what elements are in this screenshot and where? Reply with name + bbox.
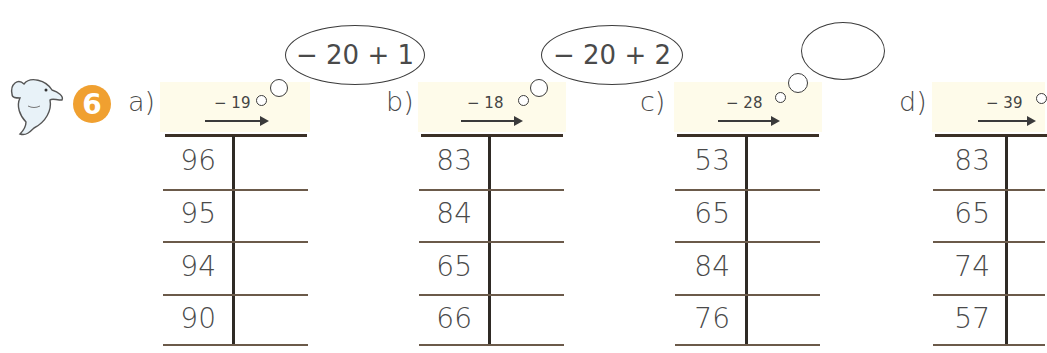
table-cell-value: 76 xyxy=(670,302,730,335)
thought-bubble-c[interactable] xyxy=(801,22,885,80)
row-line xyxy=(933,241,1045,243)
answer-cell[interactable] xyxy=(492,192,562,240)
thought-dot-small xyxy=(1036,93,1047,104)
row-line xyxy=(163,344,308,346)
answer-cell[interactable] xyxy=(236,244,306,292)
operation-label-b: − 18 xyxy=(467,94,503,112)
thought-dot-small xyxy=(256,95,267,106)
row-line xyxy=(419,344,564,346)
part-label-c: c) xyxy=(640,86,665,117)
table-divider-b xyxy=(488,136,491,344)
answer-cell[interactable] xyxy=(1009,297,1045,343)
arrow-icon xyxy=(978,120,1032,122)
exercise-number-badge: 6 xyxy=(73,85,111,123)
operation-label-d: − 39 xyxy=(986,94,1022,112)
dolphin-icon xyxy=(6,72,68,138)
table-cell-value: 83 xyxy=(412,144,472,177)
answer-cell[interactable] xyxy=(236,138,306,188)
row-line xyxy=(419,241,564,243)
answer-cell[interactable] xyxy=(236,192,306,240)
row-line xyxy=(163,294,308,296)
answer-cell[interactable] xyxy=(1009,138,1045,188)
answer-cell[interactable] xyxy=(492,297,562,343)
row-line xyxy=(933,189,1045,191)
table-cell-value: 65 xyxy=(670,197,730,230)
part-label-d: d) xyxy=(899,86,927,117)
table-divider-c xyxy=(745,136,748,344)
table-cell-value: 90 xyxy=(156,302,216,335)
table-cell-value: 83 xyxy=(930,144,990,177)
table-top-line-a xyxy=(165,134,307,137)
table-cell-value: 94 xyxy=(156,250,216,283)
arrow-icon xyxy=(205,120,265,122)
table-divider-d xyxy=(1005,136,1008,344)
answer-cell[interactable] xyxy=(749,244,819,292)
row-line xyxy=(933,344,1045,346)
row-line xyxy=(675,189,820,191)
part-label-a: a) xyxy=(128,86,155,117)
answer-cell[interactable] xyxy=(1009,244,1045,292)
answer-cell[interactable] xyxy=(236,297,306,343)
table-cell-value: 66 xyxy=(412,302,472,335)
row-line xyxy=(675,344,820,346)
operation-label-c: − 28 xyxy=(726,94,762,112)
answer-cell[interactable] xyxy=(749,192,819,240)
table-cell-value: 57 xyxy=(930,302,990,335)
thought-dot-small xyxy=(518,95,529,106)
thought-dot-large xyxy=(530,79,548,97)
table-divider-a xyxy=(232,136,235,344)
thought-text-a: − 20 + 1 xyxy=(296,40,414,70)
table-cell-value: 65 xyxy=(930,197,990,230)
table-cell-value: 65 xyxy=(412,250,472,283)
row-line xyxy=(419,294,564,296)
table-cell-value: 95 xyxy=(156,197,216,230)
table-top-line-b xyxy=(421,134,563,137)
row-line xyxy=(933,294,1045,296)
answer-cell[interactable] xyxy=(1009,192,1045,240)
row-line xyxy=(419,189,564,191)
arrow-icon xyxy=(461,120,519,122)
table-cell-value: 96 xyxy=(156,144,216,177)
thought-text-b: − 20 + 2 xyxy=(553,40,671,70)
answer-cell[interactable] xyxy=(492,244,562,292)
table-cell-value: 84 xyxy=(670,250,730,283)
operation-label-a: − 19 xyxy=(214,94,250,112)
row-line xyxy=(675,294,820,296)
arrow-icon xyxy=(718,120,776,122)
answer-cell[interactable] xyxy=(749,138,819,188)
thought-bubble-a: − 20 + 1 xyxy=(285,25,425,85)
table-top-line-c xyxy=(677,134,819,137)
row-line xyxy=(675,241,820,243)
table-top-line-d xyxy=(935,134,1047,137)
row-line xyxy=(163,189,308,191)
table-cell-value: 74 xyxy=(930,250,990,283)
thought-dot-large xyxy=(788,73,808,93)
thought-dot-large xyxy=(270,79,288,97)
answer-cell[interactable] xyxy=(749,297,819,343)
table-cell-value: 53 xyxy=(670,144,730,177)
part-label-b: b) xyxy=(386,86,414,117)
answer-cell[interactable] xyxy=(492,138,562,188)
thought-bubble-b: − 20 + 2 xyxy=(541,25,683,85)
table-cell-value: 84 xyxy=(412,197,472,230)
thought-dot-small xyxy=(775,92,786,103)
row-line xyxy=(163,241,308,243)
